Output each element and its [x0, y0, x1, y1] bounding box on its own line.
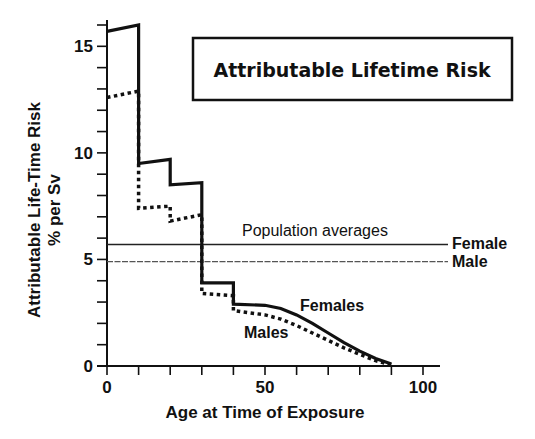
y-tick-label: 10 — [74, 144, 93, 163]
y-tick-label: 0 — [84, 357, 93, 376]
population-averages-label: Population averages — [242, 222, 388, 239]
y-tick-label: 5 — [84, 250, 93, 269]
y-axis-title-line1: Attributable Life-Time Risk — [25, 101, 44, 318]
y-axis-title-line2: % per Sv — [45, 174, 64, 246]
females-series-label: Females — [300, 297, 364, 314]
chart: 051015050100 Attributable Lifetime Risk … — [0, 0, 535, 439]
reference-lines — [107, 245, 448, 262]
male-average-label: Male — [452, 253, 488, 270]
x-tick-label: 50 — [256, 378, 275, 397]
x-tick-label: 0 — [102, 378, 111, 397]
males-series-label: Males — [244, 324, 289, 341]
x-tick-label: 100 — [409, 378, 437, 397]
chart-title: Attributable Lifetime Risk — [213, 59, 491, 81]
x-axis-title: Age at Time of Exposure — [165, 403, 364, 422]
y-tick-label: 15 — [74, 37, 93, 56]
female-average-label: Female — [452, 235, 507, 252]
